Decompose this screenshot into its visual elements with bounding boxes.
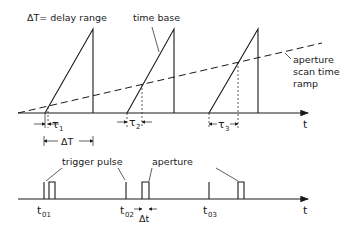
aperture-scan-leader [285, 53, 291, 59]
svg-text:τ: τ [52, 118, 59, 131]
upper-axis-label: t [303, 118, 308, 131]
aperture-label: aperture [152, 156, 193, 167]
ramp-1 [45, 29, 93, 113]
svg-text:02: 02 [125, 211, 134, 219]
trigger-pulse-leader-1 [46, 168, 62, 181]
svg-text:1: 1 [59, 125, 63, 133]
aperture-leader-2 [216, 168, 238, 181]
svg-text:03: 03 [208, 211, 217, 219]
aperture-scan-label-2: scan time [293, 66, 340, 77]
tau2-dimension: τ 2 [117, 116, 152, 131]
time-base-ramps [45, 29, 258, 113]
trigger-pulse-label: trigger pulse [62, 156, 123, 167]
lower-time-axis: t [18, 199, 308, 217]
delay-range-label: ΔT= delay range [27, 12, 107, 23]
t02-label: t 02 [120, 204, 134, 219]
aperture-scan-label-1: aperture [293, 54, 334, 65]
svg-text:ΔT: ΔT [61, 136, 73, 147]
aperture-scan-ramp [18, 43, 322, 113]
trigger-pulse-leader-2 [118, 168, 125, 180]
ramp-2 [127, 29, 174, 113]
timing-diagram: t τ 1 τ 2 τ 3 ΔT ΔT [0, 0, 352, 232]
svg-text:τ: τ [218, 118, 225, 131]
svg-text:2: 2 [136, 123, 140, 131]
time-base-leader [152, 27, 159, 52]
time-base-label: time base [133, 12, 180, 23]
ramp-3 [209, 29, 258, 113]
tau1-dimension: τ 1 [34, 118, 63, 133]
t01-label: t 01 [37, 204, 51, 219]
delta-t-dimension: Δt [134, 209, 157, 224]
t03-label: t 03 [203, 204, 217, 219]
svg-text:01: 01 [42, 211, 51, 219]
aperture-leader-1 [149, 168, 152, 181]
aperture-pulse-2 [142, 182, 149, 199]
svg-text:Δt: Δt [139, 213, 149, 224]
svg-text:3: 3 [225, 125, 229, 133]
aperture-pulse-1 [49, 182, 55, 199]
aperture-pulse-3 [238, 182, 244, 199]
delta-T-dimension: ΔT [44, 136, 93, 147]
lower-axis-label: t [303, 204, 308, 217]
aperture-scan-label-3: ramp [293, 78, 318, 89]
svg-text:τ: τ [129, 116, 136, 129]
tau3-dimension: τ 3 [209, 118, 238, 133]
